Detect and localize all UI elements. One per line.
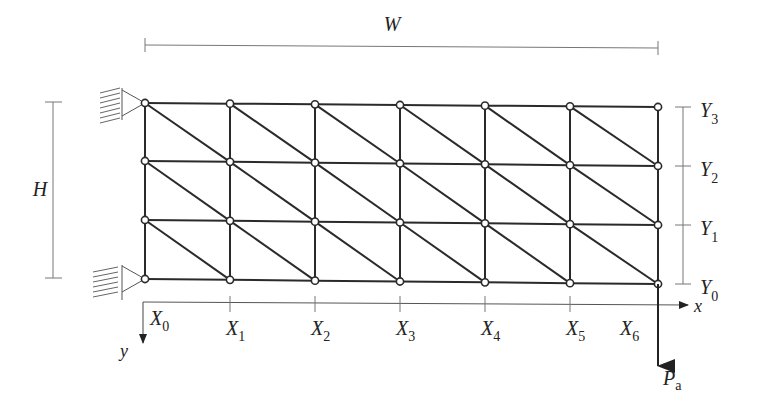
truss-node: [226, 217, 233, 224]
truss-members: [145, 103, 658, 284]
truss-node: [566, 103, 573, 110]
member-horizontal: [315, 163, 400, 164]
x-tick-label-1: X1: [225, 317, 245, 344]
truss-node: [481, 102, 488, 109]
truss-node: [311, 159, 318, 166]
member-horizontal: [485, 282, 570, 283]
truss-node: [141, 216, 148, 223]
x-axis-label: x: [693, 296, 702, 316]
pin-support-top: [100, 88, 145, 123]
member-diagonal: [230, 221, 315, 281]
truss-node: [481, 220, 488, 227]
truss-node: [396, 278, 403, 285]
member-horizontal: [400, 105, 485, 106]
member-diagonal: [230, 162, 315, 222]
member-diagonal: [485, 164, 570, 224]
truss-node: [654, 221, 661, 228]
truss-node: [481, 279, 488, 286]
member-horizontal: [400, 223, 485, 224]
member-diagonal: [485, 223, 570, 283]
member-diagonal: [145, 161, 230, 221]
height-label: H: [32, 178, 49, 200]
y-dimension-ruler: [675, 107, 691, 284]
member-diagonal: [315, 104, 400, 163]
member-diagonal: [400, 164, 485, 224]
width-dimension: W: [145, 13, 658, 55]
truss-diagram: W H: [0, 0, 758, 406]
member-horizontal: [315, 222, 400, 223]
x-tick-label-2: X2: [310, 317, 330, 344]
y-tick-label-1: Y1: [700, 217, 718, 245]
member-diagonal: [145, 103, 230, 162]
truss-node: [566, 221, 573, 228]
member-diagonal: [570, 224, 658, 284]
member-horizontal: [145, 220, 230, 221]
truss-node: [141, 99, 148, 106]
truss-node: [566, 280, 573, 287]
member-horizontal: [570, 165, 658, 166]
truss-node: [311, 101, 318, 108]
truss-node: [141, 275, 148, 282]
member-horizontal: [145, 161, 230, 162]
truss-node: [396, 219, 403, 226]
y-tick-label-0: Y0: [700, 276, 718, 304]
y-axis: y: [118, 302, 143, 361]
point-load: Pa: [658, 284, 682, 393]
load-label: Pa: [662, 367, 682, 393]
member-horizontal: [485, 223, 570, 224]
member-horizontal: [570, 283, 658, 284]
member-horizontal: [145, 279, 230, 280]
member-horizontal: [485, 106, 570, 107]
member-horizontal: [315, 281, 400, 282]
truss-node: [396, 160, 403, 167]
member-diagonal: [315, 163, 400, 223]
member-diagonal: [400, 105, 485, 164]
member-diagonal: [570, 106, 658, 166]
y-axis-label: y: [118, 341, 128, 361]
truss-node: [654, 162, 661, 169]
width-label: W: [384, 13, 403, 35]
truss-figure: W H: [0, 0, 758, 406]
member-horizontal: [570, 224, 658, 225]
member-diagonal: [315, 222, 400, 282]
truss-node: [311, 218, 318, 225]
member-diagonal: [485, 106, 570, 166]
truss-node: [226, 100, 233, 107]
member-horizontal: [230, 280, 315, 281]
x-tick-label-5: X5: [565, 317, 585, 344]
truss-node: [654, 103, 661, 110]
truss-node: [226, 276, 233, 283]
y-tick-label-2: Y2: [700, 158, 718, 186]
x-tick-label-0: X0: [149, 307, 169, 334]
member-horizontal: [230, 104, 315, 105]
member-diagonal: [570, 165, 658, 225]
member-diagonal: [145, 220, 230, 280]
truss-node: [311, 277, 318, 284]
member-horizontal: [400, 164, 485, 165]
truss-nodes: [141, 99, 661, 287]
member-horizontal: [485, 164, 570, 165]
truss-node: [396, 101, 403, 108]
x-tick-label-3: X3: [395, 317, 415, 344]
height-dimension: H: [32, 102, 62, 278]
member-horizontal: [230, 221, 315, 222]
y-tick-label-3: Y3: [700, 99, 718, 127]
y-tick-labels: Y0Y1Y2Y3: [700, 99, 718, 304]
truss-node: [481, 161, 488, 168]
member-horizontal: [315, 104, 400, 105]
x-tick-label-6: X6: [619, 317, 639, 344]
member-horizontal: [145, 103, 230, 104]
x-axis: x: [143, 296, 702, 316]
x-tick-label-4: X4: [480, 317, 500, 344]
truss-node: [566, 162, 573, 169]
pin-support-bottom: [93, 265, 145, 300]
x-tick-labels: X0X1X2X3X4X5X6: [149, 307, 639, 344]
member-horizontal: [570, 106, 658, 107]
member-horizontal: [230, 162, 315, 163]
member-diagonal: [230, 104, 315, 163]
member-horizontal: [400, 282, 485, 283]
member-diagonal: [400, 223, 485, 283]
truss-node: [226, 158, 233, 165]
truss-node: [141, 157, 148, 164]
